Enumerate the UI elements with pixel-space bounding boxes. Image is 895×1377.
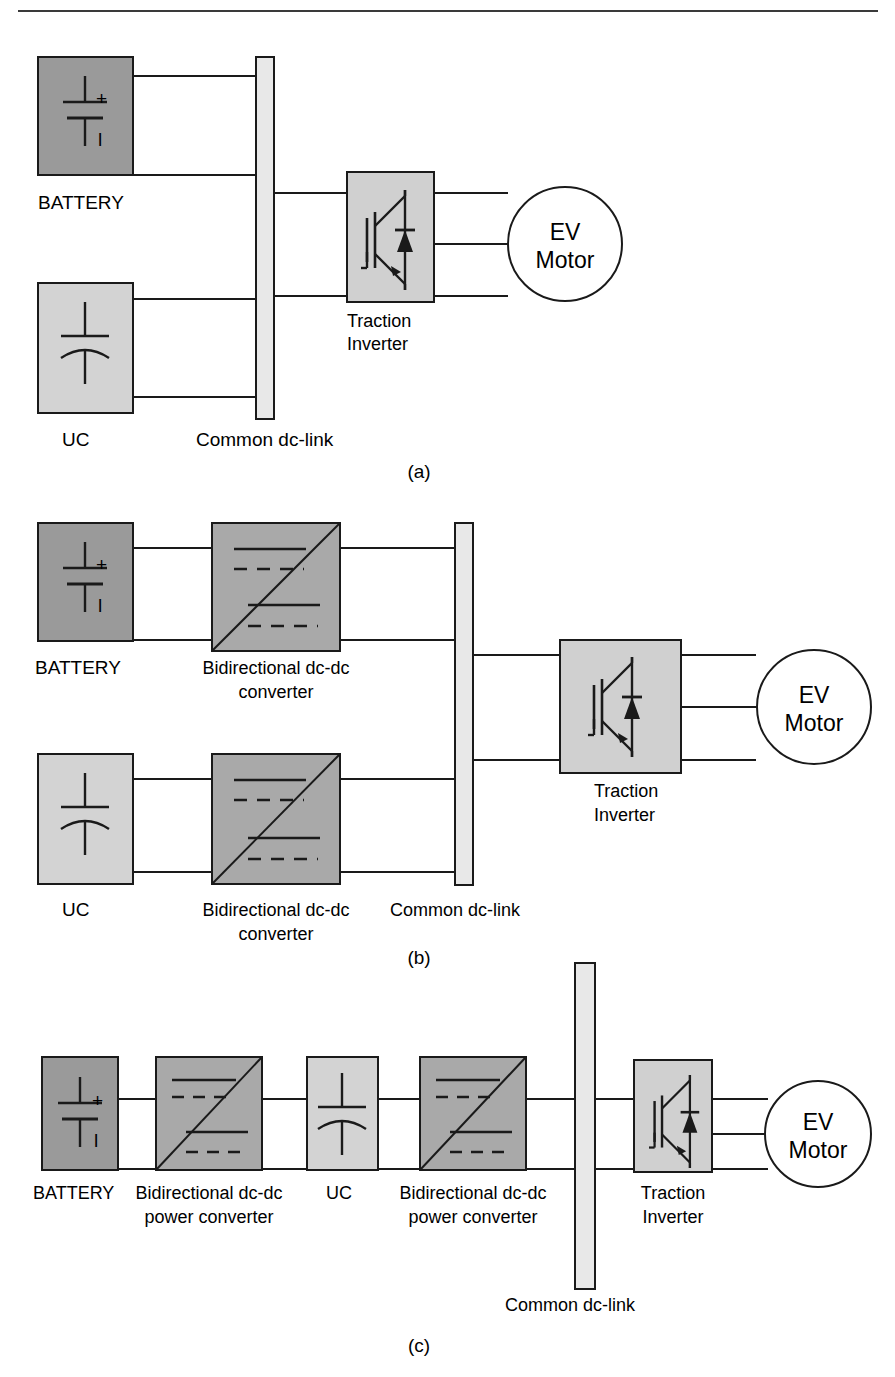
panel-c-battery-label: BATTERY <box>33 1183 114 1203</box>
panel-c-battery-converter[interactable] <box>156 1057 262 1170</box>
figure-stage: + l BATTERY UC Common dc-link <box>0 0 895 1377</box>
panel-c-ev-motor[interactable]: EV Motor <box>765 1081 871 1187</box>
panel-b-uc-label: UC <box>62 899 89 920</box>
panel-c-uc-block[interactable] <box>307 1057 378 1170</box>
panel-c-traction-inverter[interactable] <box>634 1060 712 1172</box>
panel-a-ev-motor[interactable]: EV Motor <box>508 187 622 301</box>
panel-a-battery-label: BATTERY <box>38 192 124 213</box>
panel-b-uc-converter[interactable] <box>212 754 340 884</box>
panel-b-inverter-label-line1: Traction <box>594 781 658 801</box>
panel-a-caption: (a) <box>407 461 430 482</box>
panel-a-motor-label-line1: EV <box>550 219 581 245</box>
panel-b-uc-block[interactable] <box>38 754 133 884</box>
panel-b-inverter-label-line2: Inverter <box>594 805 655 825</box>
panel-b-battery-converter[interactable] <box>212 523 340 651</box>
panel-b-dc-link-label: Common dc-link <box>390 900 521 920</box>
panel-c-motor-label-line1: EV <box>803 1109 834 1135</box>
panel-a-dc-link-label: Common dc-link <box>196 429 334 450</box>
battery-minus-sign: l <box>94 1130 98 1151</box>
panel-a-wires <box>133 76 513 397</box>
panel-a-dc-link[interactable] <box>256 57 274 419</box>
panel-b: + l BATTERY Bidirectional dc-dc converte… <box>35 523 871 968</box>
panel-a: + l BATTERY UC Common dc-link <box>38 57 622 482</box>
panel-c-dc-link-label: Common dc-link <box>505 1295 636 1315</box>
panel-c-uc-label: UC <box>326 1183 352 1203</box>
panel-b-traction-inverter[interactable] <box>560 640 681 773</box>
panel-b-caption: (b) <box>407 947 430 968</box>
panel-a-inverter-label-line1: Traction <box>347 311 411 331</box>
panel-b-battery-converter-label-line2: converter <box>238 682 313 702</box>
battery-plus-sign: + <box>92 1090 103 1111</box>
panel-c-inverter-label-line2: Inverter <box>642 1207 703 1227</box>
panel-c-uc-converter[interactable] <box>420 1057 526 1170</box>
panel-b-motor-label-line1: EV <box>799 682 830 708</box>
panel-b-uc-converter-label-line1: Bidirectional dc-dc <box>202 900 349 920</box>
panel-b-battery-converter-label-line1: Bidirectional dc-dc <box>202 658 349 678</box>
panel-a-motor-label-line2: Motor <box>536 247 595 273</box>
panel-b-uc-converter-label-line2: converter <box>238 924 313 944</box>
panel-a-uc-label: UC <box>62 429 89 450</box>
panel-a-uc-block[interactable] <box>38 283 133 413</box>
panel-b-battery-label: BATTERY <box>35 657 121 678</box>
panel-c-battery-converter-label-line1: Bidirectional dc-dc <box>135 1183 282 1203</box>
battery-plus-sign: + <box>96 554 107 575</box>
panel-b-dc-link[interactable] <box>455 523 473 885</box>
panel-c-uc-converter-label-line2: power converter <box>408 1207 537 1227</box>
battery-minus-sign: l <box>98 129 102 150</box>
panel-c-battery-block[interactable]: + l <box>42 1057 118 1170</box>
panel-c-battery-converter-label-line2: power converter <box>144 1207 273 1227</box>
panel-c-caption: (c) <box>408 1335 430 1356</box>
panel-c: + l BATTERY Bidirectional dc-dc power co… <box>33 963 871 1356</box>
panel-c-motor-label-line2: Motor <box>789 1137 848 1163</box>
battery-minus-sign: l <box>98 595 102 616</box>
panel-c-uc-converter-label-line1: Bidirectional dc-dc <box>399 1183 546 1203</box>
battery-plus-sign: + <box>96 88 107 109</box>
panel-a-inverter-label-line2: Inverter <box>347 334 408 354</box>
figure-page: + l BATTERY UC Common dc-link <box>0 0 895 1377</box>
panel-a-battery-block[interactable]: + l <box>38 57 133 175</box>
panel-b-motor-label-line2: Motor <box>785 710 844 736</box>
panel-c-inverter-label-line1: Traction <box>641 1183 705 1203</box>
panel-b-ev-motor[interactable]: EV Motor <box>757 650 871 764</box>
panel-a-traction-inverter[interactable] <box>347 172 434 302</box>
panel-c-dc-link[interactable] <box>575 963 595 1289</box>
panel-b-battery-block[interactable]: + l <box>38 523 133 641</box>
ev-powertrain-topologies-figure: + l BATTERY UC Common dc-link <box>0 0 895 1377</box>
